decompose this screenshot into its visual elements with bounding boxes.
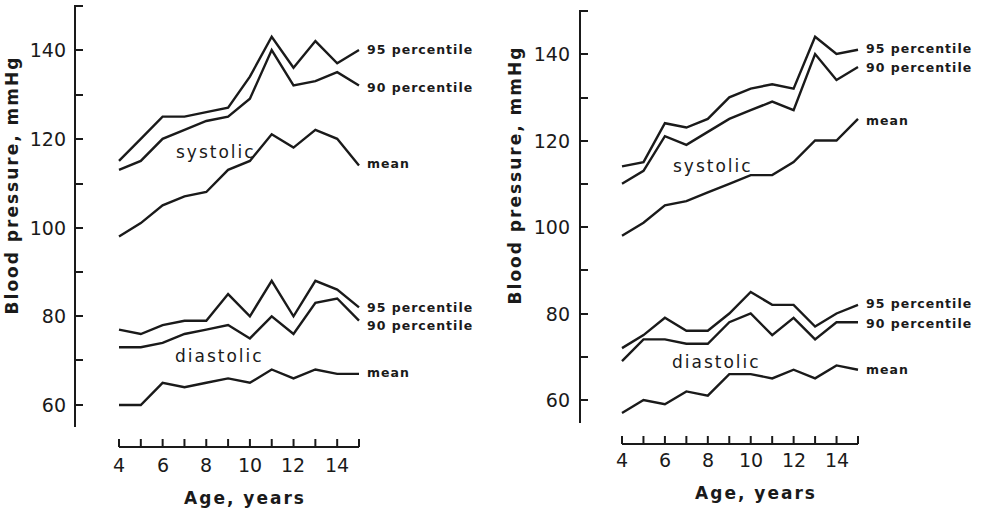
right-y-axis-title: Blood pressure, mmHg (505, 46, 525, 305)
right-ytick-100: 100 (534, 216, 570, 238)
series-line-diastolic-mean (622, 365, 858, 413)
left-ytick-140: 140 (30, 39, 66, 61)
series-line-diastolic-95-percentile (119, 281, 359, 334)
left-x-axis-title: Age, years (184, 488, 306, 508)
right-dia-90-label: 90 percentile (866, 316, 972, 331)
right-xtick-8: 8 (702, 449, 714, 471)
left-xtick-10: 10 (238, 454, 262, 476)
left-x-ticks (119, 439, 359, 447)
left-dia-90-label: 90 percentile (367, 318, 473, 333)
right-x-ticks (622, 436, 858, 444)
right-sys-mean-label: mean (866, 113, 909, 128)
right-sys-95-label: 95 percentile (866, 41, 972, 56)
left-dia-mean-label: mean (367, 365, 410, 380)
right-ytick-60: 60 (546, 389, 570, 411)
left-y-axis (75, 6, 83, 427)
left-xtick-14: 14 (325, 454, 349, 476)
left-xtick-12: 12 (281, 454, 305, 476)
left-y-axis-title: Blood pressure, mmHg (2, 56, 22, 315)
left-xtick-6: 6 (157, 454, 169, 476)
right-sys-90-label: 90 percentile (866, 60, 972, 75)
right-xtick-4: 4 (616, 449, 628, 471)
right-dia-mean-label: mean (866, 362, 909, 377)
right-systolic-label: systolic (673, 156, 753, 176)
right-xtick-10: 10 (739, 449, 763, 471)
series-line-diastolic-mean (119, 370, 359, 406)
left-chart-panel: 140 120 100 80 60 Blood pressure, mmHg 4… (2, 6, 473, 508)
left-dia-95-label: 95 percentile (367, 300, 473, 315)
right-dia-95-label: 95 percentile (866, 296, 972, 311)
chart-figure: 140 120 100 80 60 Blood pressure, mmHg 4… (0, 0, 984, 520)
left-sys-95-label: 95 percentile (367, 42, 473, 57)
left-sys-90-label: 90 percentile (367, 80, 473, 95)
right-x-axis-title: Age, years (695, 483, 817, 503)
left-ytick-60: 60 (42, 394, 66, 416)
left-diastolic-label: diastolic (175, 346, 264, 366)
left-xtick-8: 8 (200, 454, 212, 476)
right-ytick-80: 80 (546, 303, 570, 325)
right-xtick-12: 12 (782, 449, 806, 471)
left-sys-mean-label: mean (367, 156, 410, 171)
left-ytick-80: 80 (42, 305, 66, 327)
right-ytick-120: 120 (534, 130, 570, 152)
right-diastolic-label: diastolic (672, 352, 761, 372)
right-y-axis (580, 11, 588, 423)
right-xtick-6: 6 (659, 449, 671, 471)
left-y-ticks (75, 50, 83, 405)
right-y-ticks (580, 54, 588, 400)
left-systolic-label: systolic (176, 142, 256, 162)
left-ytick-120: 120 (30, 128, 66, 150)
right-chart-panel: 140 120 100 80 60 Blood pressure, mmHg 4… (505, 11, 972, 503)
right-ytick-140: 140 (534, 43, 570, 65)
left-ytick-100: 100 (30, 217, 66, 239)
right-xtick-14: 14 (825, 449, 849, 471)
left-xtick-4: 4 (113, 454, 125, 476)
